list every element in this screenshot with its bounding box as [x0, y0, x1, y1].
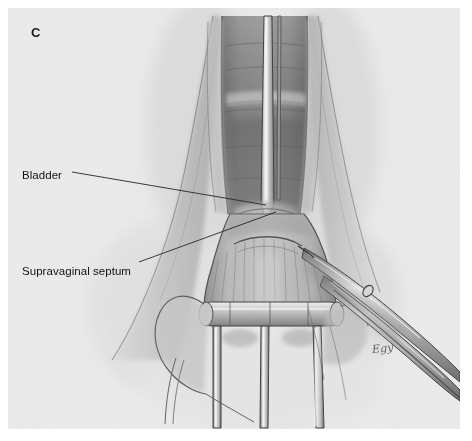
figure-root: C Bladder Supravaginal septum Egy — [0, 0, 472, 441]
speculum-rim — [199, 302, 344, 326]
artist-signature: Egy — [371, 341, 394, 356]
callout-label-supravaginal-septum: Supravaginal septum — [22, 265, 131, 277]
surgical-illustration — [8, 8, 460, 429]
illustration-plate: C Bladder Supravaginal septum Egy — [8, 8, 460, 429]
callout-label-bladder: Bladder — [22, 169, 62, 181]
panel-letter: C — [31, 25, 41, 40]
central-retractor-blade — [261, 16, 281, 214]
